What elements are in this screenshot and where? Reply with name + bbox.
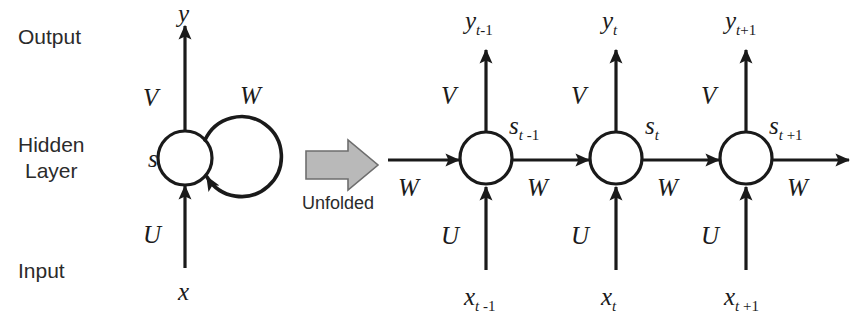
unfolded-block-arrow [306, 140, 378, 190]
row-label-output: Output [18, 25, 81, 48]
hidden-node-t-minus-1 [460, 132, 512, 184]
timestep-group-t-plus-1: V U W yt+1 st +1 xt +1 [701, 7, 849, 314]
label-x-t-plus-1: xt +1 [723, 283, 759, 314]
label-y-t-plus-1: yt+1 [722, 7, 756, 38]
label-V-t: V [571, 82, 589, 109]
folded-label-y: y [175, 0, 190, 27]
folded-label-V: V [143, 84, 161, 111]
timestep-group-t: V U W yt st xt [571, 7, 719, 314]
folded-rnn-group: V U W s y x [143, 0, 281, 305]
label-y-t-minus-1: yt-1 [462, 7, 493, 38]
row-label-hidden-line1: Hidden [18, 133, 85, 156]
folded-label-s: s [148, 145, 158, 172]
label-W-t-plus-1: W [787, 174, 810, 201]
label-U-t-minus-1: U [441, 222, 461, 249]
label-U-t-plus-1: U [701, 222, 721, 249]
row-label-hidden-line2: Layer [25, 159, 78, 182]
label-W-t-minus-1: W [527, 174, 550, 201]
label-V-t-plus-1: V [701, 82, 719, 109]
label-s-t-plus-1: st +1 [769, 112, 803, 143]
unfolded-label: Unfolded [302, 193, 374, 213]
label-x-t-minus-1: xt -1 [463, 283, 496, 314]
folded-recurrent-loop [205, 117, 281, 197]
unfolded-rnn-group: W V U W yt-1 st -1 xt -1 [388, 7, 849, 314]
folded-label-W: W [240, 82, 263, 109]
label-U-t: U [571, 222, 591, 249]
label-x-t: xt [600, 283, 617, 314]
timestep-group-t-minus-1: V U W yt-1 st -1 xt -1 [441, 7, 589, 314]
rnn-diagram: Output Hidden Layer Input V U W s y x Un… [0, 0, 868, 322]
unfolded-incoming-label-W: W [398, 174, 421, 201]
row-label-input: Input [18, 259, 65, 282]
folded-label-U: U [143, 221, 163, 248]
label-V-t-minus-1: V [441, 82, 459, 109]
hidden-node-t [590, 132, 642, 184]
rnn-diagram-canvas: Output Hidden Layer Input V U W s y x Un… [0, 0, 868, 322]
folded-label-x: x [177, 278, 189, 305]
hidden-node-t-plus-1 [720, 132, 772, 184]
label-s-t-minus-1: st -1 [509, 112, 539, 143]
label-y-t: yt [599, 7, 618, 38]
label-s-t: st [645, 112, 660, 143]
unfolded-transition-group: Unfolded [302, 140, 378, 213]
label-W-t: W [657, 174, 680, 201]
